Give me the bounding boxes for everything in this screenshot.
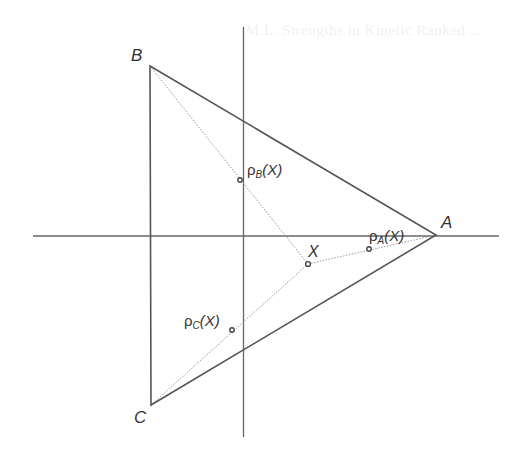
rho-a-symbol: ρ — [369, 227, 378, 244]
label-rho-a: ρA(X) — [369, 228, 404, 243]
rho-b-symbol: ρ — [247, 161, 256, 178]
label-point-x: X — [308, 244, 319, 260]
rho-c-subscript: C — [193, 320, 200, 331]
point-rho-b — [238, 178, 242, 182]
label-rho-c: ρC(X) — [184, 313, 220, 328]
diagram-canvas: M.L. Strengths in Kinetic Ranked ... B A… — [0, 0, 521, 454]
rho-c-argument: (X) — [200, 312, 220, 329]
label-rho-b: ρB(X) — [247, 162, 282, 177]
label-vertex-c: C — [134, 409, 146, 426]
dotted-line-b-x — [150, 66, 308, 264]
rho-b-subscript: B — [256, 169, 263, 180]
rho-b-argument: (X) — [262, 161, 282, 178]
point-rho-a — [367, 247, 371, 251]
rho-c-symbol: ρ — [184, 312, 193, 329]
rho-a-argument: (X) — [384, 227, 404, 244]
rho-a-subscript: A — [378, 235, 385, 246]
dotted-line-c-x — [151, 264, 308, 405]
label-vertex-b: B — [131, 47, 142, 64]
point-rho-c — [230, 328, 234, 332]
point-x — [306, 262, 311, 267]
label-vertex-a: A — [441, 214, 452, 231]
